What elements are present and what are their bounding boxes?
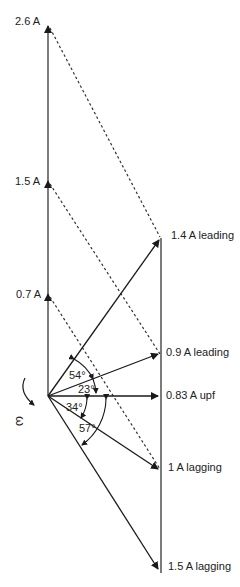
phasor-1-5A-lagging <box>48 396 158 569</box>
label-1A-lagging: 1 A lagging <box>168 461 222 473</box>
rotation-arrow-icon <box>23 378 34 405</box>
phasor-1A-lagging <box>48 396 158 469</box>
angle-54: 54° <box>69 369 86 381</box>
label-1-4A-leading: 1.4 A leading <box>171 229 234 241</box>
angle-23: 23° <box>78 383 95 395</box>
arrow-1-5A <box>44 180 52 188</box>
label-2-6A: 2.6 A <box>15 15 40 27</box>
dashed-0-7A <box>50 297 160 469</box>
dashed-2-6A <box>50 28 160 237</box>
phasor-1-4A-leading <box>48 240 159 396</box>
omega-symbol: ω <box>14 416 26 426</box>
label-1-5A-lagging: 1.5 A lagging <box>168 560 231 572</box>
label-0-83A-upf: 0.83 A upf <box>166 389 215 401</box>
dashed-1-5A <box>50 184 160 354</box>
label-1-5A: 1.5 A <box>15 175 40 187</box>
angle-57: 57° <box>79 422 96 434</box>
label-0-9A-leading: 0.9 A leading <box>166 346 229 358</box>
phasor-0-9A-leading <box>48 354 158 396</box>
arrow-0-7A <box>44 293 52 301</box>
angle-34: 34° <box>66 401 83 413</box>
label-0-7A: 0.7 A <box>16 288 41 300</box>
